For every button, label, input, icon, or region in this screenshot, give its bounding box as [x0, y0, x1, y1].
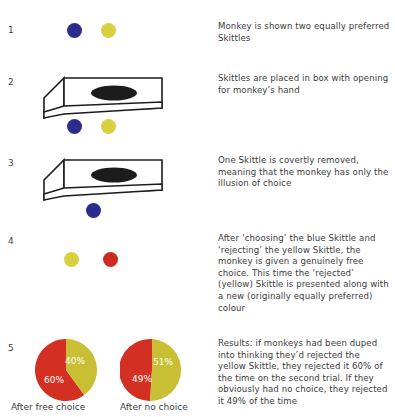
figure-canvas: 1 Monkey is shown two equally preferred …	[0, 0, 395, 417]
step-number-5: 5	[8, 343, 24, 353]
pie-chart-free-choice: 40% 60%	[34, 338, 98, 402]
step-number-1: 1	[8, 25, 24, 35]
box-with-opening-icon	[42, 152, 166, 202]
step-number-3: 3	[8, 158, 24, 168]
red-skittle-icon	[103, 252, 118, 267]
step-description-3: One Skittle is covertly removed, meaning…	[218, 155, 390, 190]
pie-label-red-no-choice: 49%	[132, 374, 152, 384]
step-description-2: Skittles are placed in box with opening …	[218, 73, 390, 96]
pie-caption-free-choice: After free choice	[11, 402, 85, 413]
pie-label-yellow-no-choice: 51%	[153, 357, 173, 367]
step-description-4: After ‘choosing’ the blue Skittle and ‘r…	[218, 233, 390, 314]
pie-chart-no-choice: 51% 49%	[120, 338, 184, 402]
pie-slice-red	[120, 339, 152, 401]
blue-skittle-icon	[86, 203, 101, 218]
blue-skittle-icon	[67, 119, 82, 134]
box-with-opening-icon	[42, 70, 166, 120]
step-number-4: 4	[8, 236, 24, 246]
step-description-1: Monkey is shown two equally preferred Sk…	[218, 21, 390, 44]
blue-skittle-icon	[67, 23, 82, 38]
yellow-skittle-icon	[101, 23, 116, 38]
pie-label-red-free-choice: 60%	[44, 375, 64, 385]
pie-slice-yellow	[150, 339, 181, 401]
pie-label-yellow-free-choice: 40%	[65, 356, 85, 366]
yellow-skittle-icon	[101, 119, 116, 134]
yellow-skittle-icon	[64, 252, 79, 267]
step-number-2: 2	[8, 77, 24, 87]
pie-caption-no-choice: After no choice	[120, 402, 188, 413]
step-description-5: Results: if monkeys had been duped into …	[218, 338, 390, 408]
